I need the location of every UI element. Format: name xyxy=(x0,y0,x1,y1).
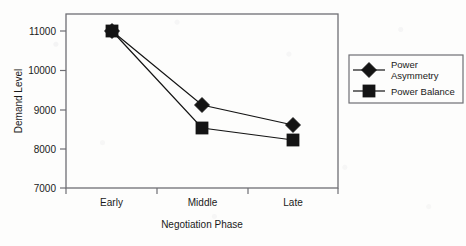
data-point-asymmetry-middle xyxy=(195,98,210,113)
data-point-balance-middle xyxy=(196,122,208,134)
x-axis: Early Middle Late xyxy=(66,188,338,208)
legend-item-power-balance[interactable]: Power Balance xyxy=(353,85,455,97)
chart-screenshot: 11000 10000 9000 8000 7000 Demand Level … xyxy=(0,0,466,246)
legend-label-balance-line1: Power Balance xyxy=(391,86,455,97)
legend-label-asymmetry-line1: Power xyxy=(391,59,418,70)
y-tick-label-2: 9000 xyxy=(34,105,57,116)
y-tick-label-1: 10000 xyxy=(28,65,56,76)
x-category-label-early: Early xyxy=(100,197,123,208)
legend-label-asymmetry-line2: Asymmetry xyxy=(391,70,439,81)
data-point-balance-early xyxy=(106,25,118,37)
y-axis: 11000 10000 9000 8000 7000 xyxy=(28,26,66,194)
x-axis-title: Negotiation Phase xyxy=(161,219,243,230)
y-tick-label-3: 8000 xyxy=(34,144,57,155)
y-tick-label-0: 11000 xyxy=(29,26,57,37)
data-point-balance-late xyxy=(287,134,299,146)
line-chart: 11000 10000 9000 8000 7000 Demand Level … xyxy=(0,0,466,246)
chart-legend: Power Asymmetry Power Balance xyxy=(349,55,463,103)
data-point-asymmetry-late xyxy=(286,118,301,133)
x-category-label-late: Late xyxy=(283,197,303,208)
series-power-balance xyxy=(106,25,299,146)
y-tick-label-4: 7000 xyxy=(34,183,57,194)
y-axis-title: Demand Level xyxy=(13,69,24,133)
series-power-asymmetry xyxy=(105,24,301,133)
x-category-label-middle: Middle xyxy=(188,197,218,208)
square-marker-icon xyxy=(363,85,375,97)
